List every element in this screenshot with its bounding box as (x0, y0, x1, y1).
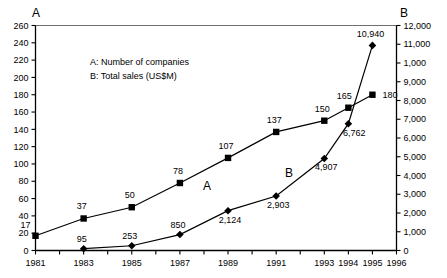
x-axis-tick-label: 1991 (266, 258, 286, 268)
series-companies-marker (177, 180, 183, 186)
series-a-point-label: 165 (337, 91, 352, 101)
right-axis-tick-label: 3,000 (404, 189, 427, 199)
series-a-annotation: A (203, 179, 211, 193)
left-axis-tick-label: 240 (13, 38, 28, 48)
left-axis-name-label: A (32, 6, 40, 20)
series-a-point-label: 107 (219, 141, 234, 151)
right-axis-tick-label: 2,000 (404, 208, 427, 218)
series-b-point-label: 6,762 (343, 128, 366, 138)
left-axis-tick-label: 200 (13, 73, 28, 83)
right-axis-name-label: B (400, 6, 408, 20)
left-axis-tick-label: 140 (13, 125, 28, 135)
x-axis-tick-label: 1996 (386, 258, 406, 268)
left-axis-tick-label: 100 (13, 159, 28, 169)
right-axis-tick-label: 1,000 (404, 227, 427, 237)
right-axis-tick-label: 12,000 (404, 21, 432, 31)
right-axis-tick-label: 11,000 (404, 39, 431, 49)
series-companies-marker (129, 204, 135, 210)
series-companies-marker (273, 129, 279, 135)
right-axis-tick-label: 7,000 (404, 114, 427, 124)
right-axis-tick-label: 6,000 (404, 133, 427, 143)
series-b-point-label: 850 (170, 220, 185, 230)
left-axis-tick-label: 180 (13, 90, 28, 100)
x-axis-tick-label: 1981 (25, 258, 45, 268)
series-a-point-label: 78 (173, 166, 183, 176)
left-axis-tick-label: 260 (13, 21, 28, 31)
series-b-point-label: 10,940 (357, 29, 385, 39)
series-b-point-label: 2,903 (267, 200, 290, 210)
series-companies-marker (345, 105, 351, 111)
series-a-point-label: 150 (315, 104, 330, 114)
x-axis-tick-label: 1983 (74, 258, 94, 268)
left-axis-tick-label: 60 (18, 194, 28, 204)
series-b-point-label: 2,124 (219, 215, 242, 225)
x-axis-tick-label: 1993 (314, 258, 334, 268)
series-companies-marker (321, 117, 327, 123)
x-axis-tick-label: 1987 (170, 258, 190, 268)
left-axis-tick-label: 220 (13, 55, 28, 65)
series-b-point-label: 4,907 (315, 162, 338, 172)
x-axis-tick-label: 1989 (218, 258, 238, 268)
series-b-annotation: B (285, 166, 293, 180)
x-axis-tick-label: 1995 (362, 258, 382, 268)
legend-line-a: A: Number of companies (90, 57, 190, 67)
left-axis-tick-label: 20 (18, 228, 28, 238)
series-companies-marker (80, 215, 86, 221)
left-axis-tick-label: 0 (23, 246, 28, 256)
legend-line-b: B: Total sales (US$M) (90, 71, 177, 81)
dual-axis-line-chart: 020406080100120140160180200220240260 01,… (0, 0, 447, 278)
series-companies-marker (32, 233, 38, 239)
series-a-point-label: 17 (20, 220, 30, 230)
series-a-point-label: 50 (125, 190, 135, 200)
series-companies-marker (225, 155, 231, 161)
series-a-point-label: 180 (382, 90, 397, 100)
series-b-point-label: 253 (122, 231, 137, 241)
right-axis-tick-label: 4,000 (404, 171, 427, 181)
left-axis-tick-label: 80 (18, 176, 28, 186)
series-companies-marker (369, 92, 375, 98)
series-a-point-label: 37 (77, 201, 87, 211)
right-axis-tick-label: 8,000 (404, 96, 427, 106)
x-axis-tick-label: 1985 (122, 258, 142, 268)
x-axis-tick-label: 1994 (338, 258, 358, 268)
right-axis-tick-label: 9,000 (404, 77, 427, 87)
chart-container: 020406080100120140160180200220240260 01,… (0, 0, 447, 278)
right-axis-tick-label: 5,000 (404, 152, 427, 162)
right-axis-tick-label: 1,000 (404, 58, 427, 68)
chart-background (0, 0, 447, 278)
series-b-point-label: 95 (77, 234, 87, 244)
left-axis-tick-label: 160 (13, 107, 28, 117)
right-axis-tick-label: 0 (404, 246, 409, 256)
left-axis-tick-label: 120 (13, 142, 28, 152)
series-a-point-label: 137 (267, 115, 282, 125)
